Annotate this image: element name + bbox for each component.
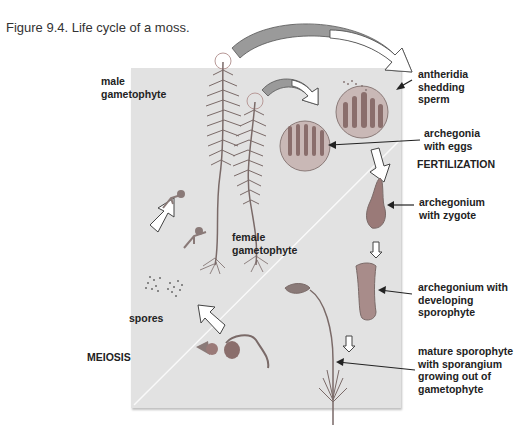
up-arrow-icon [198,305,225,334]
up-arrow-icon [150,198,174,232]
label-mature-sporophyte: mature sporophyte with sporangium growin… [418,345,513,395]
label-spores: spores [129,312,163,325]
mature-sporophyte-illustration [285,284,347,426]
down-arrow-icon [370,242,382,258]
label-male-gametophyte: male gametophyte [101,75,166,100]
protonema-illustration [163,191,206,248]
down-arrow-icon [343,336,355,352]
small-curved-arrow-icon [262,79,318,105]
stage-fertilization: FERTILIZATION [417,158,495,170]
label-archegonium-zygote: archegonium with zygote [419,196,485,221]
label-archegonium-developing: archegonium with developing sporophyte [418,281,508,319]
antheridia-illustration [336,80,388,138]
label-archegonia: archegonia with eggs [424,127,480,152]
spores-illustration [145,276,183,297]
archegonia-illustration [280,121,330,171]
large-curved-arrow-icon [232,24,412,72]
sporangium-illustration [196,335,268,368]
archegonium-developing-illustration [356,263,376,320]
stage-meiosis: MEIOSIS [87,351,131,363]
archegonium-zygote-illustration [367,178,386,228]
label-female-gametophyte: female gametophyte [232,231,297,256]
label-antheridia: antheridia shedding sperm [418,68,468,106]
